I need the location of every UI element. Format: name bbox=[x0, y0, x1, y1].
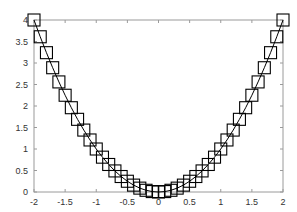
y-tick-label: 2.5 bbox=[15, 80, 28, 90]
y-tick-label: 3.5 bbox=[15, 37, 28, 47]
data-series bbox=[28, 14, 289, 198]
plot-frame bbox=[34, 20, 283, 192]
y-tick-label: 0.5 bbox=[15, 166, 28, 176]
y-tick-label: 1 bbox=[23, 144, 28, 154]
y-tick-label: 2 bbox=[23, 101, 28, 111]
x-tick-label: 1.5 bbox=[246, 197, 259, 207]
x-tick-label: 1 bbox=[218, 197, 223, 207]
chart-canvas: -2-1.5-1-0.500.511.52 00.511.522.533.54 bbox=[0, 0, 297, 212]
y-tick-label: 0 bbox=[23, 187, 28, 197]
y-tick-label: 3 bbox=[23, 58, 28, 68]
y-tick-label: 4 bbox=[23, 15, 28, 25]
x-tick-label: -0.5 bbox=[120, 197, 136, 207]
x-tick-label: -2 bbox=[30, 197, 38, 207]
series-line bbox=[34, 20, 283, 192]
y-axis-ticks: 00.511.522.533.54 bbox=[15, 15, 283, 197]
x-tick-label: 0.5 bbox=[183, 197, 196, 207]
x-tick-label: -1 bbox=[92, 197, 100, 207]
x-tick-label: -1.5 bbox=[57, 197, 73, 207]
y-tick-label: 1.5 bbox=[15, 123, 28, 133]
x-tick-label: 2 bbox=[280, 197, 285, 207]
plot-axes bbox=[34, 20, 283, 192]
